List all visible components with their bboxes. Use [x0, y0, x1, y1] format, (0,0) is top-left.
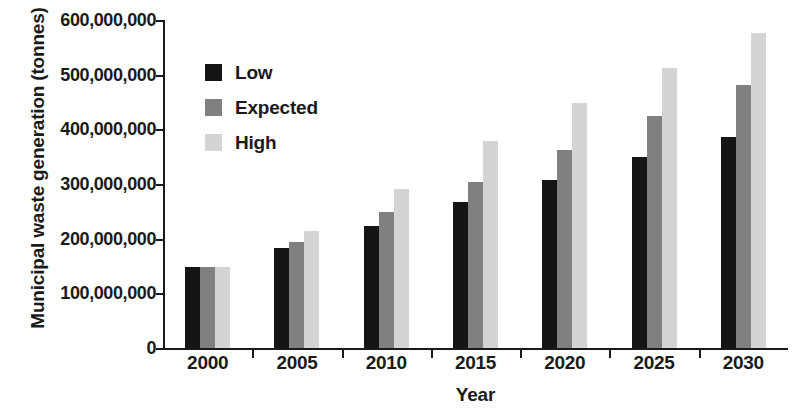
legend-swatch-expected-icon	[205, 99, 222, 116]
x-tick-label: 2015	[431, 352, 521, 374]
chart-legend: LowExpectedHigh	[205, 55, 385, 160]
legend-label: Expected	[235, 97, 318, 119]
x-tick-label: 2005	[252, 352, 342, 374]
bar-high-2020	[572, 103, 587, 348]
y-axis-tick-labels: 0100,000,000200,000,000300,000,000400,00…	[38, 0, 156, 412]
x-axis-title: Year	[163, 384, 788, 406]
legend-label: High	[235, 132, 276, 154]
bar-low-2005	[274, 248, 289, 348]
bar-expected-2010	[379, 212, 394, 348]
bar-group-2020	[542, 20, 587, 348]
bar-group-2025	[632, 20, 677, 348]
y-tick-label: 0	[38, 338, 156, 359]
y-tick-mark	[156, 129, 163, 131]
legend-item-low: Low	[205, 55, 385, 90]
legend-swatch-high-icon	[205, 134, 222, 151]
bar-high-2010	[394, 189, 409, 348]
y-tick-mark	[156, 75, 163, 77]
bar-low-2000	[185, 267, 200, 348]
bar-expected-2000	[200, 267, 215, 348]
bar-expected-2020	[557, 150, 572, 348]
legend-label: Low	[235, 62, 272, 84]
y-tick-label: 300,000,000	[38, 174, 156, 195]
bar-high-2025	[662, 68, 677, 348]
legend-item-expected: Expected	[205, 90, 385, 125]
bar-low-2010	[364, 226, 379, 348]
legend-item-high: High	[205, 125, 385, 160]
y-tick-mark	[156, 20, 163, 22]
x-tick-label: 2030	[698, 352, 788, 374]
y-tick-mark	[156, 184, 163, 186]
x-tick-label: 2020	[520, 352, 610, 374]
bar-expected-2015	[468, 182, 483, 348]
y-tick-label: 500,000,000	[38, 64, 156, 85]
bar-low-2025	[632, 157, 647, 348]
bar-high-2000	[215, 267, 230, 348]
bar-low-2020	[542, 180, 557, 348]
y-tick-label: 400,000,000	[38, 119, 156, 140]
y-tick-mark	[156, 239, 163, 241]
bar-group-2030	[721, 20, 766, 348]
legend-swatch-low-icon	[205, 64, 222, 81]
bar-low-2015	[453, 202, 468, 348]
bar-high-2015	[483, 141, 498, 348]
y-tick-label: 200,000,000	[38, 228, 156, 249]
bar-low-2030	[721, 137, 736, 348]
x-tick-label: 2025	[609, 352, 699, 374]
y-axis-line	[163, 20, 165, 349]
bar-high-2030	[751, 33, 766, 348]
bar-expected-2025	[647, 116, 662, 348]
x-axis-line	[163, 348, 788, 350]
bar-expected-2030	[736, 85, 751, 348]
municipal-waste-bar-chart: Municipal waste generation (tonnes) 0100…	[0, 0, 798, 412]
x-tick-label: 2000	[163, 352, 253, 374]
bar-expected-2005	[289, 242, 304, 348]
x-axis-tick-labels: 2000200520102015202020252030	[163, 352, 788, 380]
y-tick-label: 100,000,000	[38, 283, 156, 304]
bar-group-2015	[453, 20, 498, 348]
y-tick-mark	[156, 293, 163, 295]
x-tick-label: 2010	[341, 352, 431, 374]
y-tick-mark	[156, 348, 163, 350]
y-tick-label: 600,000,000	[38, 10, 156, 31]
bar-high-2005	[304, 231, 319, 348]
